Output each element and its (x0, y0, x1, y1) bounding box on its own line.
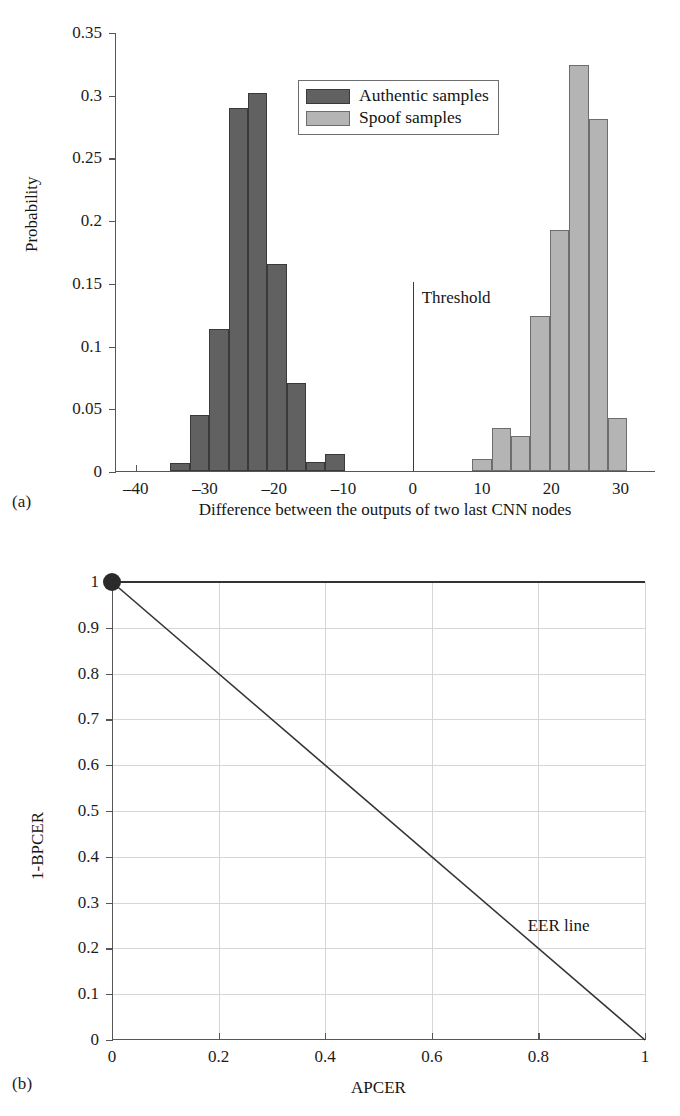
panel-b-gridline-vertical (645, 582, 646, 1040)
panel-a-y-tick-label: 0.25 (72, 148, 102, 168)
panel-b-curves (112, 582, 645, 1040)
histogram-bar (492, 428, 511, 471)
panel-a-y-tick-label: 0.05 (72, 399, 102, 419)
panel-a-x-tick-label: –20 (261, 479, 287, 499)
histogram-bar (287, 383, 306, 471)
panel-a-y-tick: 0.3 (109, 96, 116, 97)
panel-b-y-tick-label: 0 (91, 1030, 100, 1050)
panel-a-x-tick-label: 0 (408, 479, 417, 499)
legend-item-authentic: Authentic samples (306, 85, 489, 107)
panel-b-y-tick-label: 0.8 (78, 664, 99, 684)
panel-b-x-tick-label: 1 (641, 1047, 650, 1067)
panel-b-y-tick-label: 0.4 (78, 847, 99, 867)
histogram-bar (325, 454, 344, 470)
threshold-label: Threshold (422, 288, 491, 308)
panel-b-x-tick-label: 0.2 (208, 1047, 229, 1067)
legend-item-spoof: Spoof samples (306, 107, 489, 129)
histogram-bar (229, 108, 248, 470)
histogram-bar (190, 415, 209, 470)
figure-root: Probability 00.050.10.150.20.250.30.35 –… (0, 0, 680, 1116)
panel-a-y-tick: 0 (109, 472, 116, 473)
legend-swatch-spoof-icon (306, 111, 350, 126)
histogram-bar (569, 65, 588, 470)
histogram-bar (267, 264, 286, 471)
panel-a-y-tick: 0.2 (109, 221, 116, 222)
eer-line-label: EER line (528, 916, 590, 936)
panel-a-x-tick-label: 10 (473, 479, 490, 499)
panel-a-y-tick: 0.35 (109, 33, 116, 34)
panel-a-y-tick-label: 0 (94, 462, 103, 482)
panel-b-y-tick-label: 0.2 (78, 938, 99, 958)
panel-b-y-axis-title: 1-BPCER (28, 812, 48, 880)
histogram-bar (530, 316, 549, 470)
legend-label-spoof: Spoof samples (359, 109, 462, 127)
panel-b-y-tick-label: 1 (91, 572, 100, 592)
panel-a-y-axis-title: Probability (22, 176, 42, 252)
panel-a-y-tick: 0.05 (109, 409, 116, 410)
panel-a-y-tick: 0.15 (109, 284, 116, 285)
panel-a-x-tick-label: –10 (331, 479, 357, 499)
threshold-line (413, 282, 414, 470)
histogram-bar (589, 119, 608, 470)
panel-a-y-tick: 0.1 (109, 347, 116, 348)
legend-label-authentic: Authentic samples (359, 87, 489, 105)
panel-a-x-tick-label: 20 (543, 479, 560, 499)
panel-a-y-tick-label: 0.1 (81, 337, 102, 357)
panel-a-x-axis-title: Difference between the outputs of two la… (115, 500, 655, 520)
eer-line (112, 582, 645, 1040)
panel-b-roc: 1-BPCER 00.10.20.30.40.50.60.70.80.91 00… (0, 540, 680, 1116)
panel-a-y-tick: 0.25 (109, 158, 116, 159)
legend-swatch-authentic-icon (306, 89, 350, 104)
histogram-bar (550, 230, 569, 471)
histogram-bar (209, 329, 228, 471)
panel-b-y-tick-label: 0.1 (78, 984, 99, 1004)
panel-a-x-tick-label: –40 (123, 479, 149, 499)
panel-a-y-tick-label: 0.2 (81, 211, 102, 231)
panel-b-tag: (b) (12, 1074, 32, 1094)
panel-b-x-tick-label: 0.8 (528, 1047, 549, 1067)
histogram-bar (170, 463, 189, 471)
panel-b-y-tick-label: 0.7 (78, 709, 99, 729)
panel-b-x-axis-title: APCER (112, 1078, 645, 1098)
histogram-bar (472, 459, 491, 470)
histogram-bar (248, 93, 267, 471)
panel-b-y-tick-label: 0.5 (78, 801, 99, 821)
panel-b-x-tick-label: 0 (108, 1047, 117, 1067)
operating-point-marker (103, 573, 121, 591)
panel-a-x-axis-line (115, 471, 655, 472)
panel-b-y-tick-label: 0.9 (78, 618, 99, 638)
panel-a-y-axis-line (115, 33, 116, 472)
panel-a-legend: Authentic samples Spoof samples (298, 80, 499, 135)
panel-b-y-tick-label: 0.6 (78, 755, 99, 775)
panel-b-x-tick: 1 (645, 1033, 646, 1040)
panel-b-x-tick-label: 0.6 (421, 1047, 442, 1067)
histogram-bar (608, 418, 627, 471)
histogram-bar (511, 436, 530, 471)
panel-a-x-tick-label: –30 (192, 479, 218, 499)
panel-a-tag: (a) (12, 492, 31, 512)
panel-a-y-tick-label: 0.3 (81, 86, 102, 106)
panel-b-x-tick-label: 0.4 (315, 1047, 336, 1067)
panel-a-y-tick-label: 0.15 (72, 274, 102, 294)
panel-b-plot-area: 00.10.20.30.40.50.60.70.80.91 00.20.40.6… (112, 582, 645, 1040)
panel-a-x-tick-label: 30 (612, 479, 629, 499)
panel-b-y-tick-label: 0.3 (78, 893, 99, 913)
panel-b-y-tick: 0 (106, 1040, 113, 1041)
histogram-bar (306, 462, 325, 471)
panel-a-y-tick-label: 0.35 (72, 23, 102, 43)
panel-a-x-tick: –40 (136, 465, 137, 472)
panel-a-histogram: Probability 00.050.10.150.20.250.30.35 –… (0, 0, 680, 540)
